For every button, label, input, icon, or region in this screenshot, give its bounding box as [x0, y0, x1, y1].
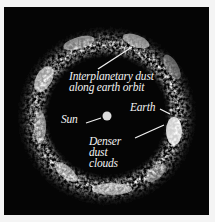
dust-ring-image: Interplanetary dust along earth orbit Su… [4, 7, 209, 215]
dense-label-line3: clouds [89, 158, 118, 169]
sun-label: Sun [61, 114, 78, 125]
earth-label: Earth [130, 102, 155, 113]
earth-icon [169, 108, 172, 111]
sun-icon [103, 112, 112, 121]
dust-ring-graphic [4, 7, 209, 215]
dust-label-line2: along earth orbit [69, 82, 144, 93]
